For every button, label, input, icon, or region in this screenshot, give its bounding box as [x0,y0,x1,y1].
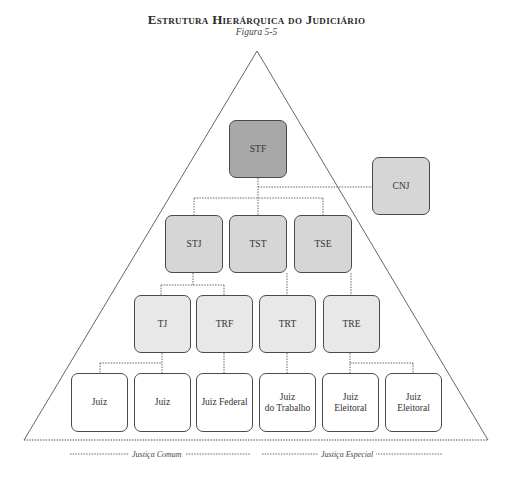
node-label: STF [250,144,266,155]
node-trf: TRF [196,295,253,353]
node-juiz-eleitoral-1: Juiz Eleitoral [322,373,379,432]
node-label: Juiz Eleitoral [334,392,367,414]
node-label: Juiz do Trabalho [265,392,311,414]
node-juiz-eleitoral-2: Juiz Eleitoral [385,373,442,432]
node-tse: TSE [294,215,352,273]
node-stf: STF [229,120,287,178]
node-label: TRT [279,319,296,330]
node-tre: TRE [323,295,380,353]
node-label: TSE [315,239,332,250]
node-tst: TST [229,215,287,273]
node-label: Juiz [92,397,107,408]
node-juiz-1: Juiz [71,373,128,432]
node-label: Juiz [155,397,170,408]
node-trt: TRT [259,295,316,353]
node-label: Juiz Eleitoral [397,392,430,414]
node-stj: STJ [165,215,223,273]
node-juiz-federal: Juiz Federal [196,373,253,432]
node-label: TJ [158,319,168,330]
label-justica-comum: Justiça Comum [129,450,185,459]
node-label: TST [250,239,267,250]
node-juiz-trabalho: Juiz do Trabalho [259,373,316,432]
node-label: STJ [187,239,202,250]
label-justica-especial: Justiça Especial [318,450,376,459]
node-tj: TJ [134,295,191,353]
node-label: CNJ [393,181,410,192]
node-label: TRE [343,319,361,330]
node-label: Juiz Federal [201,397,247,408]
node-juiz-2: Juiz [134,373,191,432]
node-cnj: CNJ [372,157,430,215]
node-label: TRF [216,319,233,330]
